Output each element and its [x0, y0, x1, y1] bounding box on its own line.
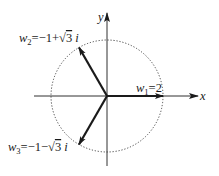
- x-axis-label: x: [199, 89, 206, 103]
- vector-w2: [79, 48, 107, 97]
- y-axis-label: y: [96, 10, 104, 24]
- w2-label: w2=−1+√3i: [19, 31, 79, 47]
- w1-label: w1=2: [136, 81, 162, 97]
- w3-equals: =: [21, 140, 28, 154]
- w3-real-part: −1−: [28, 140, 48, 154]
- vector-w3: [79, 96, 107, 145]
- w1-equals: =: [149, 81, 156, 95]
- w2-real-part: −1+: [39, 31, 59, 45]
- w2-sqrt-arg: 3: [66, 31, 72, 45]
- w3-sqrt-arg: 3: [55, 140, 61, 154]
- w3-imaginary-unit: i: [64, 140, 68, 154]
- w1-value: 2: [156, 81, 162, 95]
- w2-equals: =: [32, 31, 39, 45]
- w3-label: w3=−1−√3i: [8, 140, 68, 156]
- w2-imaginary-unit: i: [75, 31, 79, 45]
- complex-plane-diagram: x y w1=2 w2=−1+√3i w3=−1−√3i: [0, 0, 219, 176]
